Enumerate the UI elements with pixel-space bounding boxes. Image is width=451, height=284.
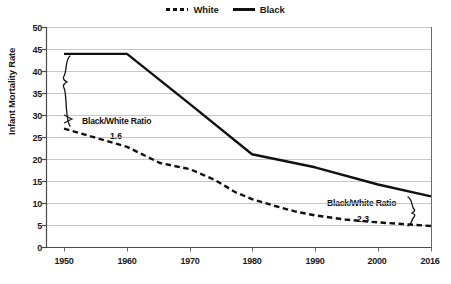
y-tick-marks (42, 28, 46, 248)
brace-left-pointer (67, 82, 80, 119)
brace-right-icon (408, 197, 415, 226)
gridlines (46, 28, 432, 226)
series-line-black (64, 54, 431, 197)
x-tick-marks (65, 248, 432, 252)
infant-mortality-chart: White Black Infant Mortality Rate 50 45 … (0, 0, 451, 284)
plot-area (0, 0, 451, 284)
series-line-white (64, 129, 431, 226)
